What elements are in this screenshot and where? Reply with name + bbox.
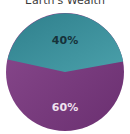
- pie-chart: 40% 60%: [0, 0, 130, 134]
- slice-label-60: 60%: [52, 101, 78, 114]
- slice-label-40: 40%: [52, 34, 78, 47]
